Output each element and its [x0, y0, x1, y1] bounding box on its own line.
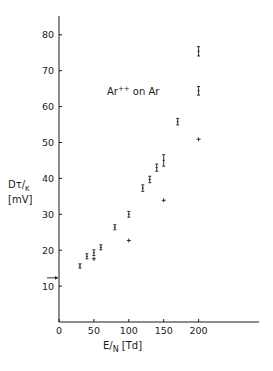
y-axis-label: Dτ/K [mV] — [8, 178, 32, 206]
y-tick-label: 80 — [42, 29, 54, 40]
error-bar-point — [197, 86, 200, 95]
cross-point — [127, 239, 131, 243]
x-tick-label: 50 — [88, 325, 100, 336]
error-bar-point — [148, 176, 151, 182]
y-axis-label-sub: K — [25, 185, 30, 193]
chart-canvas: 1020304050607080050100150200 — [0, 0, 273, 371]
x-tick-label: 200 — [190, 325, 208, 336]
y-tick-label: 20 — [42, 245, 54, 256]
data-points — [78, 47, 200, 269]
x-axis-label: E/N [Td] — [103, 340, 142, 351]
y-tick-label: 40 — [42, 173, 54, 184]
annotation-charge: ++ — [118, 85, 130, 93]
annotation-ion: Ar — [107, 86, 118, 97]
x-tick-label: 100 — [120, 325, 138, 336]
cross-point — [197, 137, 201, 141]
y-tick-label: 50 — [42, 137, 54, 148]
y-axis-label-main: Dτ/ — [8, 179, 25, 190]
error-bar-point — [85, 254, 88, 259]
x-tick-label: 150 — [155, 325, 173, 336]
error-bar-point — [127, 211, 130, 217]
y-tick-label: 60 — [42, 101, 54, 112]
error-bar-point — [99, 245, 102, 250]
x-axis-label-sub: N — [113, 345, 119, 354]
cross-point — [92, 257, 96, 261]
y-axis-unit: [mV] — [8, 193, 32, 206]
annotation-target: on Ar — [130, 86, 160, 97]
error-bar-point — [78, 264, 81, 268]
cross-point — [162, 198, 166, 202]
error-bar-point — [141, 185, 144, 191]
y-tick-label: 30 — [42, 209, 54, 220]
error-bar-point — [155, 164, 158, 171]
arrow-head-icon — [55, 276, 58, 280]
error-bar-point — [176, 118, 179, 124]
x-axis-label-main: E/ — [103, 340, 113, 351]
error-bar-point — [162, 155, 165, 166]
annotation-label: Ar++ on Ar — [107, 85, 159, 97]
error-bar-point — [197, 47, 200, 56]
x-tick-label: 0 — [56, 325, 62, 336]
y-tick-label: 10 — [42, 281, 54, 292]
error-bar-point — [92, 250, 95, 256]
y-tick-label: 70 — [42, 65, 54, 76]
error-bar-point — [113, 225, 116, 230]
x-axis-unit: [Td] — [119, 340, 142, 351]
